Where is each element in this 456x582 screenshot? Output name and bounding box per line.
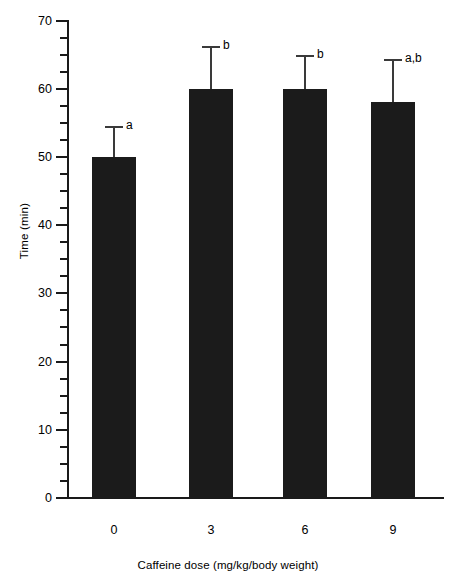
error-bar-cap <box>384 59 402 61</box>
x-tick-label: 0 <box>84 524 144 537</box>
bar <box>92 157 136 498</box>
x-tick-label: 6 <box>275 524 335 537</box>
error-bar-cap <box>202 46 220 48</box>
bar <box>189 89 233 498</box>
significance-label: a <box>126 119 133 131</box>
x-axis-title: Caffeine dose (mg/kg/body weight) <box>0 559 456 571</box>
bar <box>283 89 327 498</box>
significance-label: b <box>317 48 324 60</box>
error-bar-cap <box>105 126 123 128</box>
error-bar-stem <box>210 46 212 89</box>
significance-label: a,b <box>405 52 422 64</box>
bar <box>371 102 415 498</box>
error-bar-stem <box>392 59 394 102</box>
plot-area: abba,b <box>0 0 456 582</box>
x-tick-label: 9 <box>363 524 423 537</box>
error-bar-cap <box>296 55 314 57</box>
error-bar-stem <box>304 55 306 89</box>
error-bar-stem <box>113 126 115 157</box>
significance-label: b <box>223 39 230 51</box>
bar-chart-figure: Time (min) 010203040506070 abba,b 0369 C… <box>0 0 456 582</box>
x-tick-label: 3 <box>181 524 241 537</box>
